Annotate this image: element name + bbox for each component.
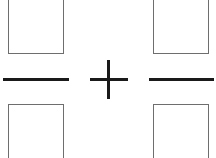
left-denominator-box[interactable]: [8, 104, 64, 158]
plus-vertical-stroke: [107, 60, 110, 99]
right-denominator-box[interactable]: [153, 104, 209, 158]
right-numerator-box[interactable]: [153, 0, 209, 54]
left-numerator-box[interactable]: [8, 0, 64, 54]
right-fraction-bar: [149, 78, 214, 81]
left-fraction-bar: [3, 78, 69, 81]
